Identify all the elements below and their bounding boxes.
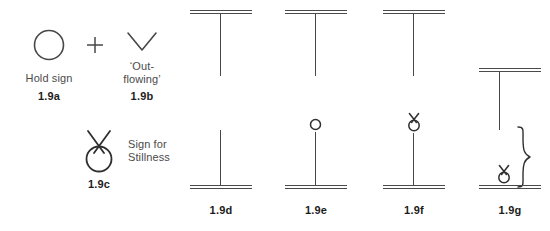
bottom-double-rule — [383, 185, 445, 189]
upper-stem — [315, 14, 316, 76]
top-double-rule — [285, 10, 347, 14]
top-double-rule — [383, 10, 445, 14]
bottom-double-rule — [190, 185, 252, 189]
plus-sign-glyph — [85, 35, 105, 55]
hold-sign-glyph — [32, 28, 66, 62]
figure-1-9: Hold sign 1.9a ‘Out- flowing’ 1.9b 1.9c … — [0, 0, 550, 231]
lower-circle-glyph — [309, 118, 322, 131]
lower-stem — [315, 132, 316, 186]
stave-label-1-9f: 1.9f — [383, 204, 445, 216]
plus-sign-icon — [85, 35, 105, 55]
out-flowing-label: 1.9b — [100, 90, 184, 102]
lower-stem — [413, 133, 414, 186]
stillness-sign-glyph — [80, 128, 118, 174]
hold-sign-label: 1.9a — [2, 90, 96, 102]
upper-stem — [413, 14, 414, 76]
out-flowing-caption: ‘Out- flowing’ — [100, 60, 184, 86]
right-curly-brace-icon — [516, 126, 532, 188]
hold-sign-caption: Hold sign — [2, 72, 96, 85]
upper-stem — [220, 14, 221, 76]
stillness-sign-label: 1.9c — [57, 178, 141, 190]
bottom-double-rule — [479, 185, 541, 189]
stave-label-1-9e: 1.9e — [285, 204, 347, 216]
stave-label-1-9d: 1.9d — [190, 204, 252, 216]
upper-stem — [499, 72, 500, 130]
lower-stillness-glyph — [496, 164, 512, 184]
bottom-double-rule — [285, 185, 347, 189]
stillness-sign-icon — [406, 112, 422, 132]
top-double-rule — [190, 10, 252, 14]
stillness-sign-caption: Sign for Stillness — [128, 138, 206, 164]
top-double-rule — [479, 68, 541, 72]
lower-stillness-glyph — [406, 112, 422, 132]
lower-stem — [220, 130, 221, 186]
out-flowing-chevron-icon — [126, 31, 158, 53]
hold-sign-circle-icon — [32, 28, 66, 62]
stillness-sign-icon — [496, 164, 512, 184]
hold-sign-circle-icon — [309, 118, 322, 131]
stillness-sign-icon — [80, 128, 118, 174]
out-flowing-glyph — [126, 31, 158, 53]
stave-label-1-9g: 1.9g — [479, 204, 541, 216]
brace-glyph — [516, 126, 532, 188]
